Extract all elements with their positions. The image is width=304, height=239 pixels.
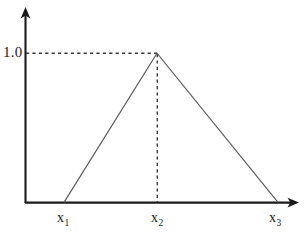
x-tick-2-subscript: 2: [159, 218, 164, 228]
plot-canvas: [0, 0, 304, 239]
x-axis-tick-label-x1: x1: [57, 211, 69, 225]
x-tick-1-variable: x: [57, 210, 64, 225]
x-tick-3-subscript: 3: [277, 218, 282, 228]
x-axis-tick-label-x3: x3: [269, 211, 281, 225]
x-tick-2-variable: x: [151, 210, 158, 225]
x-axis-tick-label-x2: x2: [151, 211, 163, 225]
y-axis-tick-label-1-0: 1.0: [3, 45, 22, 60]
x-tick-1-subscript: 1: [65, 218, 70, 228]
triangle-membership-curve: [64, 53, 278, 202]
x-tick-3-variable: x: [269, 210, 276, 225]
figure-container: 1.0 x1 x2 x3: [0, 0, 304, 239]
